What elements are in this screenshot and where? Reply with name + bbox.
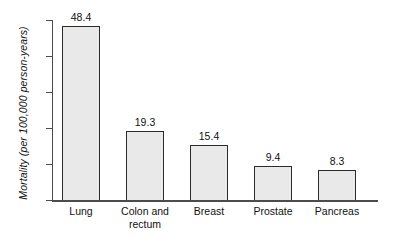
bar-group: 15.4 <box>190 0 228 200</box>
bar-group: 8.3 <box>318 0 356 200</box>
bar-value-label: 19.3 <box>135 116 155 128</box>
bar-group: 19.3 <box>126 0 164 200</box>
bar <box>318 170 356 200</box>
x-axis-category-label: Colon and rectum <box>121 205 169 230</box>
bar-value-label: 8.3 <box>330 155 345 167</box>
bar-chart: Mortality (per 100,000 person-years) 010… <box>0 0 396 238</box>
bar <box>126 131 164 200</box>
bar <box>254 166 292 200</box>
bar-value-label: 48.4 <box>71 11 91 23</box>
x-axis-category-label: Lung <box>69 205 92 218</box>
bar-group: 9.4 <box>254 0 292 200</box>
bar-value-label: 15.4 <box>199 130 219 142</box>
x-axis-category-label: Prostate <box>253 205 292 218</box>
x-axis-category-label: Breast <box>194 205 224 218</box>
bars-container: 48.419.315.49.48.3 <box>0 0 396 200</box>
bar-value-label: 9.4 <box>266 151 281 163</box>
x-axis-category-label: Pancreas <box>315 205 359 218</box>
bar <box>62 26 100 200</box>
bar <box>190 145 228 200</box>
x-axis-line <box>52 200 378 202</box>
bar-group: 48.4 <box>62 0 100 200</box>
